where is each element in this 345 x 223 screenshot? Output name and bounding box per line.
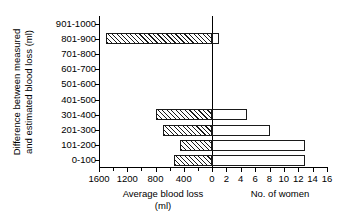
x-axis-tick-right <box>226 168 227 172</box>
bar-average-blood-loss <box>106 33 212 44</box>
y-axis-title: Difference between measured and estimate… <box>11 7 35 177</box>
y-axis-tick-label: 201-300 <box>61 125 96 135</box>
y-axis-tick <box>95 24 99 25</box>
x-axis-minor-tick-left <box>141 168 142 171</box>
y-axis-tick <box>95 145 99 146</box>
x-axis-tick-label-right: 12 <box>293 173 304 184</box>
y-axis-tick-label: 0-100 <box>72 155 96 165</box>
x-axis-tick-left <box>127 168 128 172</box>
x-axis-tick-right <box>255 168 256 172</box>
x-axis-tick-right <box>284 168 285 172</box>
x-axis-tick-right <box>270 168 271 172</box>
y-axis-tick-label: 601-700 <box>61 64 96 74</box>
x-axis-tick-left <box>99 168 100 172</box>
y-axis-tick <box>95 84 99 85</box>
left-axis-caption-label: Average blood loss <box>123 188 204 199</box>
x-axis-tick-label-right: 0 <box>209 173 214 184</box>
bar-average-blood-loss <box>156 109 213 120</box>
y-axis-tick <box>95 130 99 131</box>
y-axis-tick-label: 301-400 <box>61 110 96 120</box>
y-axis-tick <box>95 54 99 55</box>
bar-no-of-women <box>212 140 305 151</box>
x-axis-tick-right <box>313 168 314 172</box>
y-axis-tick-label: 701-800 <box>61 49 96 59</box>
y-axis-tick <box>95 100 99 101</box>
left-axis-caption-unit: (ml) <box>88 200 238 212</box>
bar-no-of-women <box>212 33 219 44</box>
y-axis-tick-label: 901-1000 <box>56 19 96 29</box>
right-axis-caption: No. of women <box>230 188 330 200</box>
y-axis-line <box>99 16 100 168</box>
x-axis-tick-label-right: 8 <box>267 173 272 184</box>
x-axis-tick-label-left: 1600 <box>88 173 109 184</box>
x-axis-minor-tick-left <box>198 168 199 171</box>
x-axis-tick-label-left: 1200 <box>117 173 138 184</box>
x-axis-tick-label-right: 6 <box>252 173 257 184</box>
x-axis-tick-label-right: 10 <box>279 173 290 184</box>
x-axis-line <box>99 167 328 168</box>
x-axis-tick-label-right: 16 <box>322 173 333 184</box>
bar-average-blood-loss <box>163 125 212 136</box>
bar-no-of-women <box>212 109 247 120</box>
x-axis-tick-label-right: 14 <box>307 173 318 184</box>
y-axis-tick-label: 801-900 <box>61 34 96 44</box>
x-axis-tick-right <box>298 168 299 172</box>
plot-area: 160012008004000246810121416 <box>99 16 328 168</box>
y-axis-tick <box>95 39 99 40</box>
y-axis-tick-label: 501-600 <box>61 79 96 89</box>
y-axis-tick <box>95 69 99 70</box>
left-axis-caption: Average blood loss (ml) <box>88 188 238 212</box>
x-axis-tick-label-right: 4 <box>238 173 243 184</box>
y-axis-tick-label: 101-200 <box>61 140 96 150</box>
y-axis-tick-labels: 0-100101-200201-300301-400401-500501-600… <box>36 16 98 168</box>
x-axis-tick-left <box>156 168 157 172</box>
x-axis-tick-right <box>241 168 242 172</box>
x-axis-minor-tick-left <box>113 168 114 171</box>
y-axis-tick <box>95 160 99 161</box>
x-axis-tick-label-left: 400 <box>176 173 192 184</box>
y-axis-title-line-1: Difference between measured <box>11 7 23 177</box>
bar-average-blood-loss <box>174 155 212 166</box>
bar-no-of-women <box>212 155 305 166</box>
y-axis-tick <box>95 115 99 116</box>
x-axis-tick-right <box>212 168 213 172</box>
y-axis-tick-label: 401-500 <box>61 95 96 105</box>
chart-container: Difference between measured and estimate… <box>0 0 345 223</box>
x-axis-tick-right <box>327 168 328 172</box>
x-axis-tick-left <box>184 168 185 172</box>
y-axis-title-line-2: and estimated blood loss (ml) <box>23 7 35 177</box>
x-axis-tick-label-left: 800 <box>148 173 164 184</box>
x-axis-tick-label-right: 2 <box>224 173 229 184</box>
bar-average-blood-loss <box>180 140 212 151</box>
x-axis-minor-tick-left <box>170 168 171 171</box>
bar-no-of-women <box>212 125 270 136</box>
